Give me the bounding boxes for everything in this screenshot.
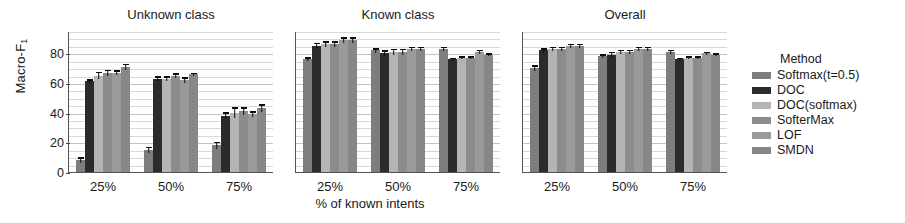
x-tick-label: 50% xyxy=(612,173,638,194)
error-bar-cap xyxy=(668,50,674,52)
bar[interactable] xyxy=(212,145,221,172)
bar[interactable] xyxy=(103,73,112,172)
bar[interactable] xyxy=(171,76,180,172)
bar[interactable] xyxy=(598,56,607,172)
x-axis-ticks: 25%50%75% xyxy=(523,173,727,197)
error-bar-cap xyxy=(532,65,538,67)
bar[interactable] xyxy=(684,58,693,172)
legend-item[interactable]: LOF xyxy=(752,128,902,143)
y-axis-label-subscript: 1 xyxy=(19,39,29,44)
bar[interactable] xyxy=(548,49,557,172)
bar[interactable] xyxy=(466,58,475,172)
bar[interactable] xyxy=(389,52,398,172)
bar[interactable] xyxy=(439,49,448,172)
bar[interactable] xyxy=(557,49,566,172)
error-bar-cap xyxy=(87,79,93,81)
bar[interactable] xyxy=(85,81,94,172)
bar[interactable] xyxy=(189,74,198,172)
error-bar-cap xyxy=(627,50,633,52)
bar-group-50pct xyxy=(371,32,425,172)
panel-title: Known class xyxy=(296,7,500,22)
bar[interactable] xyxy=(530,68,539,172)
error-bar-cap xyxy=(391,49,397,51)
bar[interactable] xyxy=(248,114,257,172)
bar[interactable] xyxy=(702,53,711,172)
bar[interactable] xyxy=(643,49,652,172)
bar[interactable] xyxy=(616,52,625,172)
bar[interactable] xyxy=(457,58,466,172)
error-bar-cap xyxy=(373,48,379,50)
panel-unknown-class: Unknown class25%50%75% xyxy=(68,32,273,173)
bar[interactable] xyxy=(634,49,643,172)
bar[interactable] xyxy=(144,150,153,172)
bar[interactable] xyxy=(121,67,130,172)
legend-item[interactable]: DOC(softmax) xyxy=(752,98,902,113)
panel-title: Unknown class xyxy=(69,7,273,22)
error-bar-cap xyxy=(382,50,388,52)
bar[interactable] xyxy=(693,58,702,172)
legend-item[interactable]: DOC xyxy=(752,83,902,98)
error-bar-cap xyxy=(305,57,311,59)
bar[interactable] xyxy=(94,76,103,172)
bar[interactable] xyxy=(330,44,339,172)
bar[interactable] xyxy=(675,59,684,172)
bar[interactable] xyxy=(666,52,675,172)
bar[interactable] xyxy=(566,46,575,172)
error-bar-cap xyxy=(250,111,256,113)
figure-bar-chart: Macro-F1 020406080 Unknown class25%50%75… xyxy=(0,0,905,223)
bar[interactable] xyxy=(339,40,348,172)
bar[interactable] xyxy=(76,160,85,172)
bar[interactable] xyxy=(221,116,230,172)
error-bar-cap xyxy=(155,76,161,78)
bar[interactable] xyxy=(153,79,162,173)
bar[interactable] xyxy=(162,79,171,173)
bar[interactable] xyxy=(448,59,457,172)
bar[interactable] xyxy=(257,108,266,172)
bar[interactable] xyxy=(484,55,493,172)
bar[interactable] xyxy=(380,53,389,172)
bar[interactable] xyxy=(371,50,380,172)
bar-group-25pct xyxy=(76,32,130,172)
bar[interactable] xyxy=(312,46,321,172)
error-bar-cap xyxy=(146,147,152,149)
legend-label: Softmax(t=0.5) xyxy=(777,69,859,82)
bar[interactable] xyxy=(112,73,121,172)
bar-groups xyxy=(523,32,727,172)
legend-item[interactable]: SMDN xyxy=(752,143,902,158)
bar[interactable] xyxy=(407,49,416,172)
bar[interactable] xyxy=(321,44,330,172)
error-bar-cap xyxy=(182,77,188,79)
error-bar-cap xyxy=(400,49,406,51)
legend-item[interactable]: SofterMax xyxy=(752,113,902,128)
error-bar-cap xyxy=(441,47,447,49)
bar[interactable] xyxy=(711,55,720,172)
bar[interactable] xyxy=(539,50,548,172)
bar[interactable] xyxy=(475,52,484,172)
x-tick-label: 50% xyxy=(158,173,184,194)
error-bar-cap xyxy=(618,50,624,52)
bar[interactable] xyxy=(575,46,584,172)
error-bar-cap xyxy=(214,142,220,144)
error-bar-cap xyxy=(173,73,179,75)
error-bar-cap xyxy=(114,70,120,72)
bar[interactable] xyxy=(348,40,357,172)
bar[interactable] xyxy=(625,52,634,172)
bar-groups xyxy=(69,32,273,172)
bar[interactable] xyxy=(303,59,312,172)
error-bar-cap xyxy=(259,104,265,106)
legend-item[interactable]: Softmax(t=0.5) xyxy=(752,68,902,83)
error-bar-cap xyxy=(123,64,129,66)
y-tick-label: 60 xyxy=(38,78,64,91)
bar[interactable] xyxy=(398,52,407,172)
bar[interactable] xyxy=(239,111,248,172)
bar[interactable] xyxy=(230,113,239,172)
legend-swatch xyxy=(752,87,771,94)
error-bar-cap xyxy=(314,43,320,45)
x-tick-label: 75% xyxy=(453,173,479,194)
error-bar-cap xyxy=(341,37,347,39)
error-bar-cap xyxy=(450,58,456,60)
bar[interactable] xyxy=(180,80,189,172)
bar[interactable] xyxy=(416,49,425,172)
bar[interactable] xyxy=(607,55,616,172)
bar-group-75pct xyxy=(666,32,720,172)
